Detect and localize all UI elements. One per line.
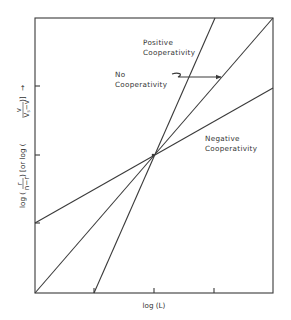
svg-text:→: → <box>18 85 27 91</box>
hill-plot-diagram: Positive Cooperativity No Cooperativity … <box>0 0 291 320</box>
intersection-point <box>152 154 155 157</box>
svg-text:n−r: n−r <box>22 177 31 191</box>
svg-text:log (: log ( <box>18 192 27 208</box>
svg-text:)]: )] <box>18 96 27 102</box>
y-axis-label: log ( r n−r ) [or log ( v VS−v )] → <box>14 85 31 208</box>
label-negative-1: Negative <box>205 134 240 143</box>
y-axis-ticks <box>35 86 40 223</box>
svg-text:) [or log (: ) [or log ( <box>18 143 27 177</box>
x-axis-label: log (L) <box>143 301 166 310</box>
label-none-1: No <box>115 70 125 79</box>
x-axis-ticks <box>94 288 214 293</box>
label-positive-1: Positive <box>143 38 173 47</box>
pointer-arrow <box>172 73 221 77</box>
label-none-2: Cooperativity <box>115 80 168 89</box>
label-negative-2: Cooperativity <box>205 144 258 153</box>
label-positive-2: Cooperativity <box>143 48 196 57</box>
